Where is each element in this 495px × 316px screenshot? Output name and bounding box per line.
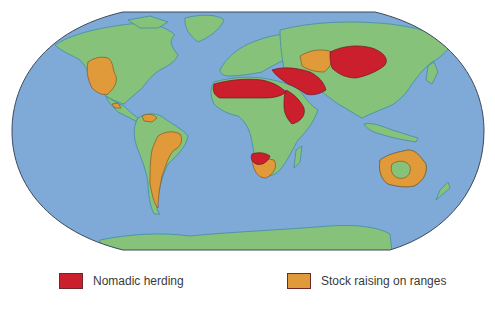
stock-raising-swatch	[287, 273, 311, 289]
world-map	[0, 0, 495, 260]
legend-label: Nomadic herding	[93, 274, 184, 288]
nomadic-herding-swatch	[59, 273, 83, 289]
legend-item-nomadic-herding: Nomadic herding	[59, 272, 184, 290]
legend-item-stock-raising: Stock raising on ranges	[287, 272, 446, 290]
legend-label: Stock raising on ranges	[321, 274, 446, 288]
